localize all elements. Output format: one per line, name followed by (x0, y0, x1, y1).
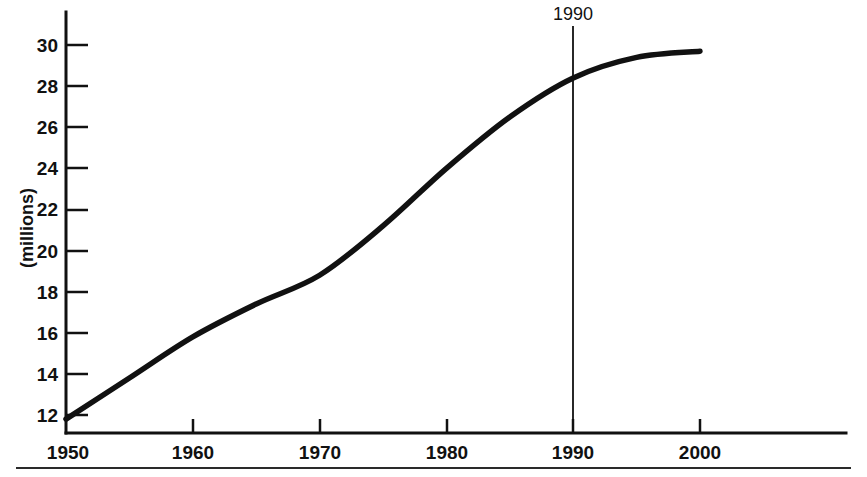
y-tick-label-14: 14 (37, 364, 59, 385)
y-tick-label-22: 22 (37, 199, 58, 220)
y-tick-label-28: 28 (37, 76, 58, 97)
x-tick-label-1970: 1970 (299, 442, 341, 463)
y-tick-label-18: 18 (37, 282, 58, 303)
chart-figure: (millions) 30 28 26 24 22 20 18 16 14 12 (0, 0, 867, 477)
x-tick-label-1960: 1960 (172, 442, 214, 463)
x-tick-label-1990: 1990 (552, 442, 594, 463)
y-tick-label-20: 20 (37, 241, 58, 262)
y-tick-label-26: 26 (37, 117, 58, 138)
y-tick-label-24: 24 (37, 158, 59, 179)
y-tick-label-12: 12 (37, 405, 58, 426)
y-tick-label-16: 16 (37, 323, 58, 344)
data-series-line (66, 51, 700, 419)
y-axis-title: (millions) (17, 188, 37, 268)
y-axis-ticks (66, 45, 88, 415)
x-tick-label-2000: 2000 (679, 442, 721, 463)
x-axis-ticks (193, 419, 700, 433)
reference-line-1990-label: 1990 (553, 4, 593, 24)
line-chart: (millions) 30 28 26 24 22 20 18 16 14 12 (0, 0, 867, 477)
x-tick-label-1950: 1950 (47, 442, 89, 463)
x-tick-label-1980: 1980 (426, 442, 468, 463)
y-tick-label-30: 30 (37, 35, 58, 56)
